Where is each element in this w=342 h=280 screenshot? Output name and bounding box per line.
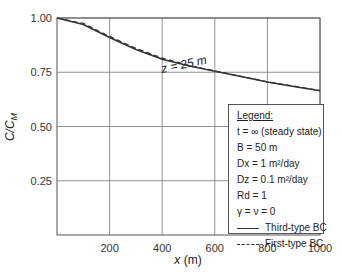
solid-line-icon [237, 228, 259, 229]
series-third-type [57, 18, 320, 91]
y-axis-label: C/CM [3, 112, 19, 141]
legend: Legend: t = ∞ (steady state) B = 50 m Dx… [228, 104, 324, 234]
legend-rd: Rd = 1 [237, 188, 323, 204]
svg-text:600: 600 [206, 242, 224, 254]
legend-dz: Dz = 0.1 m²/day [237, 172, 323, 188]
legend-first-type: First-type BC [237, 236, 323, 252]
legend-time: t = ∞ (steady state) [237, 124, 323, 140]
svg-text:0.75: 0.75 [31, 66, 52, 78]
svg-text:400: 400 [153, 242, 171, 254]
x-axis-label: x (m) [173, 253, 201, 267]
svg-text:200: 200 [100, 242, 118, 254]
svg-text:0.25: 0.25 [31, 175, 52, 187]
legend-third-type: Third-type BC [237, 220, 323, 236]
dashed-line-icon [237, 244, 259, 245]
legend-b: B = 50 m [237, 140, 323, 156]
series-first-type [57, 18, 320, 91]
svg-text:1.00: 1.00 [31, 12, 52, 24]
svg-text:0.50: 0.50 [31, 121, 52, 133]
legend-dx: Dx = 1 m²/day [237, 156, 323, 172]
legend-gamma: γ = ν = 0 [237, 204, 323, 220]
legend-title: Legend: [237, 108, 323, 124]
